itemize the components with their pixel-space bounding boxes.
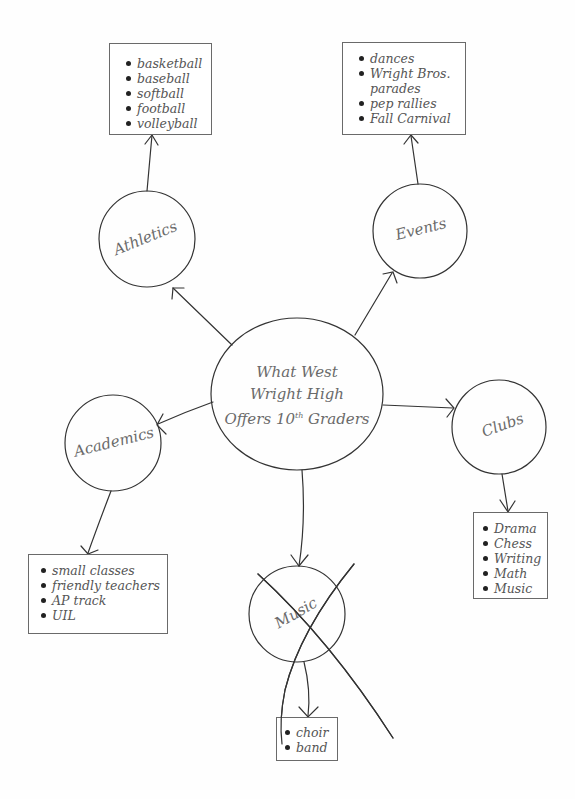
athletics-list: basketball baseball softball football vo… [126,56,211,131]
center-line-3: Offers 10th Graders [211,405,383,430]
list-item: volleyball [126,116,211,131]
arrow-center-to-music [299,470,303,566]
arrow-clubs-to-box [502,474,508,511]
list-item: baseball [126,71,211,86]
academics-list: small classes friendly teachers AP track… [41,563,167,623]
list-item: choir [285,725,337,740]
concept-web-diagram: What West Wright High Offers 10th Grader… [0,0,575,799]
list-item: Chess [483,536,547,551]
list-item: Writing [483,551,547,566]
center-line-1: What West [211,361,383,383]
center-topic: What West Wright High Offers 10th Grader… [211,361,383,430]
list-item-continuation: parades [359,81,465,96]
clubs-list: Drama Chess Writing Math Music [483,521,547,596]
crossout-stroke-1 [258,574,393,738]
events-box: dances Wright Bros. parades pep rallies … [342,42,466,135]
list-item: Wright Bros. [359,66,465,81]
list-item: band [285,740,337,755]
list-item: Math [483,566,547,581]
list-item: small classes [41,563,167,578]
list-item: AP track [41,593,167,608]
arrow-academics-to-box [88,491,111,553]
arrow-center-to-clubs [383,405,453,408]
list-item: Fall Carnival [359,111,465,126]
athletics-box: basketball baseball softball football vo… [109,43,212,135]
arrow-center-to-academics [158,402,213,424]
arrow-events-to-box [411,136,418,184]
arrow-center-to-events [355,273,392,335]
arrow-center-to-athletics [173,288,232,345]
list-item: friendly teachers [41,578,167,593]
events-list: dances Wright Bros. parades pep rallies … [359,51,465,126]
music-box: choir band [276,717,338,761]
list-item: pep rallies [359,96,465,111]
list-item: Drama [483,521,547,536]
center-line-2: Wright High [211,383,383,405]
list-item: Music [483,581,547,596]
list-item: UIL [41,608,167,623]
list-item: softball [126,86,211,101]
arrow-athletics-to-box [147,135,152,191]
list-item: basketball [126,56,211,71]
clubs-box: Drama Chess Writing Math Music [473,512,548,599]
list-item: football [126,101,211,116]
list-item: dances [359,51,465,66]
music-list: choir band [285,725,337,755]
arrow-music-to-box [304,662,309,716]
academics-box: small classes friendly teachers AP track… [28,554,168,634]
